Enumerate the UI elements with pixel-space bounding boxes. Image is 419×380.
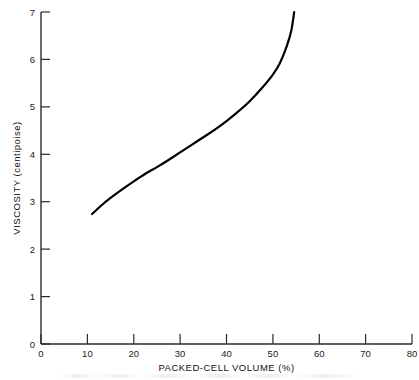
x-axis-title: PACKED-CELL VOLUME (%) bbox=[158, 362, 294, 373]
data-series-line bbox=[92, 12, 294, 214]
y-tick-label-5: 5 bbox=[30, 101, 35, 112]
page-edge-artifact bbox=[60, 374, 360, 378]
y-axis-tick-labels: 0 1 2 3 4 5 6 7 bbox=[30, 7, 35, 350]
figure-container: 0 1 2 3 4 5 6 7 0 10 20 30 40 50 60 70 8… bbox=[0, 0, 419, 380]
x-tick-label-30: 30 bbox=[175, 348, 186, 359]
y-tick-label-4: 4 bbox=[30, 149, 35, 160]
y-tick-label-1: 1 bbox=[30, 291, 35, 302]
x-tick-label-70: 70 bbox=[360, 348, 371, 359]
x-tick-label-50: 50 bbox=[268, 348, 279, 359]
x-tick-label-10: 10 bbox=[82, 348, 93, 359]
y-axis-ticks bbox=[41, 12, 50, 344]
x-axis-ticks bbox=[41, 334, 412, 344]
y-tick-label-3: 3 bbox=[30, 196, 35, 207]
y-tick-label-0: 0 bbox=[30, 339, 35, 350]
y-tick-label-7: 7 bbox=[30, 7, 35, 18]
x-tick-label-60: 60 bbox=[314, 348, 325, 359]
x-tick-label-40: 40 bbox=[221, 348, 232, 359]
x-tick-label-20: 20 bbox=[129, 348, 140, 359]
viscosity-vs-packed-cell-volume-chart: 0 1 2 3 4 5 6 7 0 10 20 30 40 50 60 70 8… bbox=[0, 0, 419, 380]
y-tick-label-6: 6 bbox=[30, 54, 35, 65]
y-tick-label-2: 2 bbox=[30, 244, 35, 255]
x-axis-tick-labels: 0 10 20 30 40 50 60 70 80 bbox=[38, 348, 417, 359]
x-tick-label-80: 80 bbox=[407, 348, 418, 359]
y-axis-title: VISCOSITY (centipoise) bbox=[11, 121, 22, 234]
x-tick-label-0: 0 bbox=[38, 348, 43, 359]
